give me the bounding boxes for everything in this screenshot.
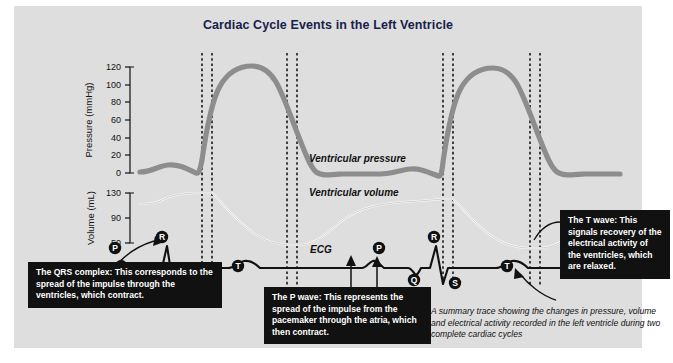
ecg-marker-t-2: T <box>501 260 513 272</box>
ecg-marker-p-2-letter: P <box>376 243 382 253</box>
volume-axis: 130 90 50 Volume (mL) <box>85 188 134 248</box>
cardiac-cycle-figure: Cardiac Cycle Events in the Left Ventric… <box>0 0 673 363</box>
pressure-tick-120: 120 <box>106 62 121 72</box>
ecg-marker-s-2: S <box>449 277 461 289</box>
ventricular-pressure-label: Ventricular pressure <box>309 153 406 164</box>
ecg-marker-s-2-letter: S <box>452 278 458 288</box>
ventricular-volume-label: Ventricular volume <box>309 187 399 198</box>
p-wave-callout-arrow <box>346 255 356 288</box>
ecg-marker-t-1: T <box>232 260 244 272</box>
volume-tick-90: 90 <box>111 213 121 223</box>
ecg-marker-r-2: R <box>428 231 440 243</box>
volume-axis-label: Volume (mL) <box>85 191 96 245</box>
pressure-tick-80: 80 <box>111 97 121 107</box>
callout-t-wave: The T wave: This signals recovery of the… <box>560 210 670 279</box>
ecg-marker-t-2-letter: T <box>504 261 510 271</box>
ecg-marker-p-1: P <box>109 242 121 254</box>
event-lines <box>202 53 540 286</box>
pressure-tick-20: 20 <box>111 150 121 160</box>
ecg-marker-r-2-letter: R <box>431 232 437 242</box>
callout-qrs-complex: The QRS complex: This corresponds to the… <box>28 262 222 308</box>
ecg-marker-p-1-letter: P <box>112 243 118 253</box>
t-wave-callout-leader <box>534 222 560 240</box>
t-wave-callout-arrow <box>514 268 556 300</box>
summary-caption: A summary trace showing the changes in p… <box>431 306 671 341</box>
ecg-marker-q-2-letter: Q <box>411 275 418 285</box>
pressure-axis-label: Pressure (mmHg) <box>83 83 94 158</box>
pressure-tick-40: 40 <box>111 133 121 143</box>
pressure-tick-0: 0 <box>116 168 121 178</box>
volume-tick-130: 130 <box>106 188 121 198</box>
ecg-label: ECG <box>310 244 332 255</box>
pressure-axis: 120 100 80 60 40 20 0 Pressure (mmHg) <box>83 62 134 178</box>
ecg-marker-t-1-letter: T <box>235 261 241 271</box>
ecg-marker-q-2: Q <box>408 274 420 286</box>
ecg-marker-p-2: P <box>373 242 385 254</box>
callout-p-wave: The P wave: This represents the spread o… <box>264 287 431 344</box>
pressure-tick-100: 100 <box>106 80 121 90</box>
pressure-tick-60: 60 <box>111 115 121 125</box>
